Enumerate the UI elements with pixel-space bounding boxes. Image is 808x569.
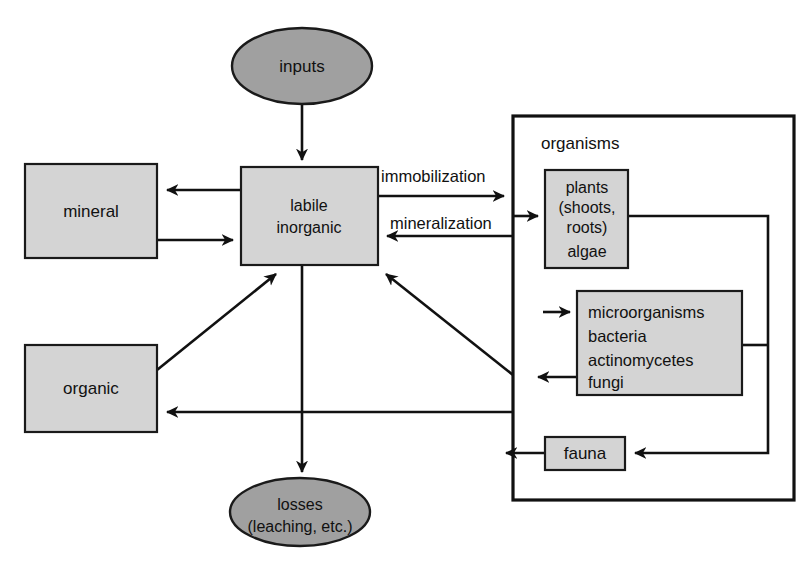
microorganisms-line1: microorganisms (588, 303, 704, 321)
node-labile-inorganic[interactable]: labile inorganic (241, 167, 378, 265)
fauna-label: fauna (564, 444, 607, 463)
inputs-label: inputs (279, 57, 324, 76)
organisms-label: organisms (541, 134, 619, 153)
immobilization-label: immobilization (381, 167, 486, 185)
edge-organisms-to-labile-diagonal (386, 274, 513, 375)
plants-line1: plants (566, 179, 609, 196)
node-losses[interactable]: losses (leaching, etc.) (230, 478, 370, 546)
plants-line3: roots) (567, 219, 608, 236)
mineral-label: mineral (63, 202, 119, 221)
node-plants[interactable]: plants (shoots, roots) algae (545, 170, 628, 268)
node-fauna[interactable]: fauna (545, 437, 625, 470)
plants-line4: algae (567, 243, 606, 260)
node-microorganisms[interactable]: microorganisms bacteria actinomycetes fu… (577, 291, 742, 395)
microorganisms-line3: actinomycetes (588, 351, 693, 369)
organic-label: organic (63, 379, 119, 398)
node-organic[interactable]: organic (25, 345, 157, 432)
edge-organic-to-labile (157, 274, 276, 370)
labile-inorganic-rect (241, 167, 378, 265)
node-mineral[interactable]: mineral (25, 164, 157, 258)
labile-inorganic-line1: labile (290, 197, 327, 214)
node-inputs[interactable]: inputs (232, 28, 372, 104)
plants-line2: (shoots, (559, 199, 616, 216)
microorganisms-line4: fungi (588, 373, 624, 391)
diagram-canvas: organisms (0, 0, 808, 569)
labile-inorganic-line2: inorganic (277, 219, 342, 236)
losses-line2: (leaching, etc.) (248, 518, 353, 535)
losses-line1: losses (277, 496, 322, 513)
microorganisms-line2: bacteria (588, 327, 648, 345)
mineralization-label: mineralization (390, 214, 492, 232)
nutrient-cycling-diagram: organisms (0, 0, 808, 569)
